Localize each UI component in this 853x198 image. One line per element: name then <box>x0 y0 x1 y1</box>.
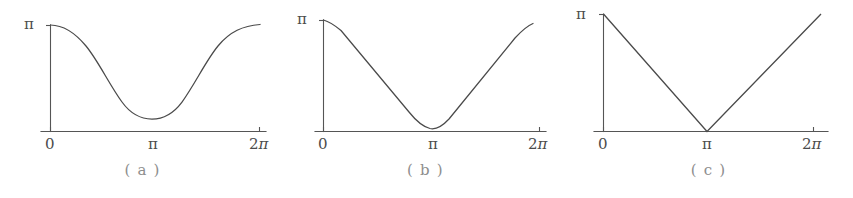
curve-a <box>51 25 261 120</box>
x-tick-label-pi-c: π <box>702 137 712 152</box>
x-tick-2pi-num-b: 2 <box>528 135 538 153</box>
x-tick-2pi-num-c: 2 <box>802 135 812 153</box>
caption-a: ( a ) <box>0 163 285 178</box>
curve-b <box>324 20 534 129</box>
x-tick-label-0-c: 0 <box>598 137 608 152</box>
caption-c: ( c ) <box>566 163 851 178</box>
x-tick-label-pi-b: π <box>428 137 438 152</box>
caption-b: ( b ) <box>283 163 568 178</box>
y-tick-label-pi-b: π <box>297 12 307 27</box>
y-tick-label-pi-a: π <box>24 17 34 32</box>
x-tick-label-0-a: 0 <box>45 137 55 152</box>
curve-c <box>604 14 822 132</box>
x-tick-label-pi-a: π <box>148 137 158 152</box>
x-tick-2pi-num-a: 2 <box>249 135 259 153</box>
chart-panel-c: π 0 π 2π ( c ) <box>566 0 851 198</box>
x-tick-label-2pi-c: 2π <box>802 137 821 152</box>
figure-row: π 0 π 2π ( a ) π 0 π 2π ( b ) <box>0 0 853 198</box>
chart-panel-b: π 0 π 2π ( b ) <box>283 0 568 198</box>
chart-panel-a: π 0 π 2π ( a ) <box>0 0 285 198</box>
x-tick-label-0-b: 0 <box>318 137 328 152</box>
x-tick-label-2pi-b: 2π <box>528 137 547 152</box>
x-tick-2pi-sym-b: π <box>538 135 548 153</box>
x-tick-label-2pi-a: 2π <box>249 137 268 152</box>
x-tick-2pi-sym-c: π <box>812 135 822 153</box>
x-tick-2pi-sym-a: π <box>259 135 269 153</box>
y-tick-label-pi-c: π <box>576 7 586 22</box>
